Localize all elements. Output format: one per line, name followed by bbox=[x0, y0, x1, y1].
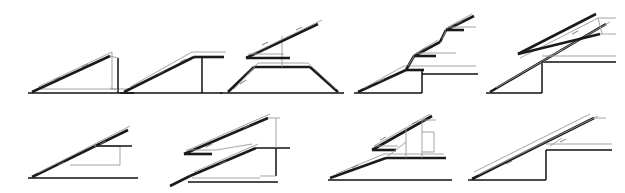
panel-5 bbox=[484, 12, 620, 100]
drawing-sheet bbox=[0, 0, 625, 193]
panel-6 bbox=[26, 120, 146, 186]
panel-3 bbox=[218, 18, 348, 100]
panel-9 bbox=[466, 112, 616, 188]
panel-7 bbox=[168, 110, 298, 190]
panel-8 bbox=[326, 112, 460, 188]
panel-4 bbox=[352, 12, 480, 100]
